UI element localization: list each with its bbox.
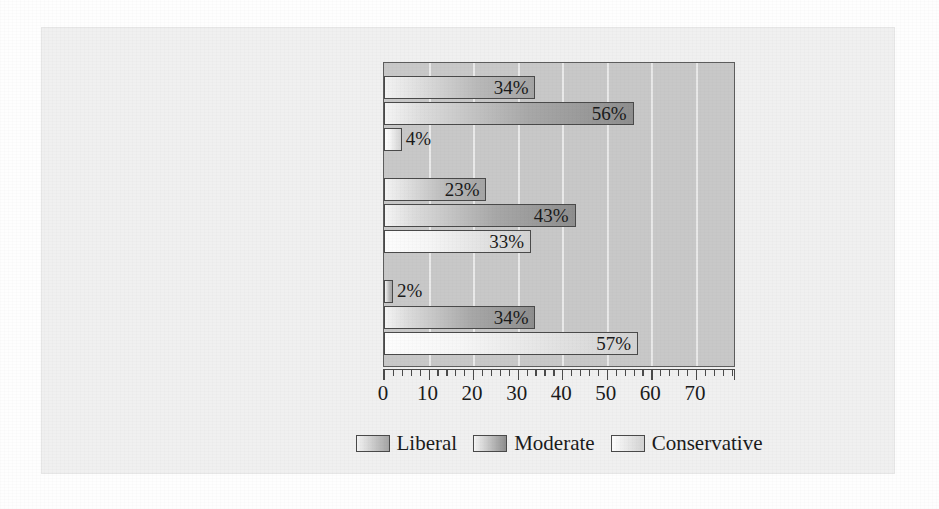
axis-tick-54: [625, 370, 626, 376]
bar-conservative-2: 57%: [384, 332, 638, 355]
chart-legend: LiberalModerateConservative: [383, 428, 735, 458]
axis-tick-48: [598, 370, 599, 376]
bar-liberal-1: 23%: [384, 178, 486, 201]
bar-value-label: 34%: [494, 307, 529, 328]
axis-tick-38: [553, 370, 554, 376]
plot-area: 34%56%4%23%43%33%2%34%57%: [383, 62, 735, 367]
axis-tick-28: [509, 370, 510, 376]
legend-label-conservative: Conservative: [652, 431, 763, 456]
axis-tick-22: [482, 370, 483, 376]
bar-moderate-2: 34%: [384, 306, 535, 329]
chart-page: Democratic Party ActivistsAll VotersRepu…: [0, 0, 939, 509]
axis-tick-12: [437, 370, 438, 376]
axis-tick-58: [642, 370, 643, 376]
x-tick-label-0: 0: [378, 381, 389, 406]
axis-tick-0: [384, 370, 385, 380]
legend-swatch-moderate-icon: [473, 435, 507, 452]
axis-tick-4: [402, 370, 403, 376]
bar-value-label: 56%: [592, 103, 627, 124]
axis-tick-62: [660, 370, 661, 376]
axis-tick-76: [723, 370, 724, 376]
bar-value-label: 23%: [445, 179, 480, 200]
bar-liberal-0: 34%: [384, 76, 535, 99]
axis-tick-6: [411, 370, 412, 376]
legend-swatch-conservative-icon: [611, 435, 645, 452]
bar-moderate-1: 43%: [384, 204, 576, 227]
gridline-60: [651, 63, 653, 366]
axis-tick-74: [714, 370, 715, 376]
bar-value-label: 43%: [534, 205, 569, 226]
x-tick-label-40: 40: [551, 381, 572, 406]
axis-tick-70: [696, 370, 697, 380]
axis-tick-24: [491, 370, 492, 376]
x-tick-label-60: 60: [640, 381, 661, 406]
bar-value-label: 2%: [397, 280, 422, 301]
axis-tick-60: [651, 370, 652, 380]
axis-tick-36: [544, 370, 545, 376]
axis-tick-78: [732, 370, 733, 376]
axis-tick-30: [518, 370, 519, 380]
bar-conservative-0: 4%: [384, 128, 402, 151]
x-tick-label-20: 20: [462, 381, 483, 406]
bar-conservative-1: 33%: [384, 230, 531, 253]
legend-label-moderate: Moderate: [514, 431, 594, 456]
bar-value-label: 34%: [494, 77, 529, 98]
axis-tick-72: [705, 370, 706, 376]
axis-tick-64: [669, 370, 670, 376]
axis-tick-10: [429, 370, 430, 380]
axis-tick-68: [687, 370, 688, 376]
axis-tick-34: [535, 370, 536, 376]
bar-liberal-2: 2%: [384, 280, 393, 303]
axis-tick-52: [616, 370, 617, 376]
bar-moderate-0: 56%: [384, 102, 634, 125]
x-axis-tick-labels: 010203040506070: [383, 381, 743, 409]
axis-tick-46: [589, 370, 590, 376]
legend-item-liberal[interactable]: Liberal: [356, 431, 458, 456]
axis-tick-8: [420, 370, 421, 376]
legend-label-liberal: Liberal: [397, 431, 458, 456]
axis-tick-16: [455, 370, 456, 376]
axis-tick-2: [393, 370, 394, 376]
x-tick-label-70: 70: [684, 381, 705, 406]
axis-tick-44: [580, 370, 581, 376]
axis-tick-50: [607, 370, 608, 380]
bar-value-label: 4%: [406, 128, 431, 149]
x-tick-label-30: 30: [506, 381, 527, 406]
axis-tick-66: [678, 370, 679, 376]
legend-item-conservative[interactable]: Conservative: [611, 431, 763, 456]
x-tick-label-50: 50: [595, 381, 616, 406]
gridline-70: [696, 63, 698, 366]
axis-tick-20: [473, 370, 474, 380]
axis-tick-56: [634, 370, 635, 376]
axis-tick-14: [446, 370, 447, 376]
legend-swatch-liberal-icon: [356, 435, 390, 452]
axis-tick-26: [500, 370, 501, 376]
bar-value-label: 33%: [489, 231, 524, 252]
bar-value-label: 57%: [596, 333, 631, 354]
x-axis: [383, 369, 735, 380]
axis-tick-40: [562, 370, 563, 380]
axis-tick-18: [464, 370, 465, 376]
axis-tick-42: [571, 370, 572, 376]
legend-item-moderate[interactable]: Moderate: [473, 431, 594, 456]
axis-tick-32: [527, 370, 528, 376]
x-tick-label-10: 10: [417, 381, 438, 406]
